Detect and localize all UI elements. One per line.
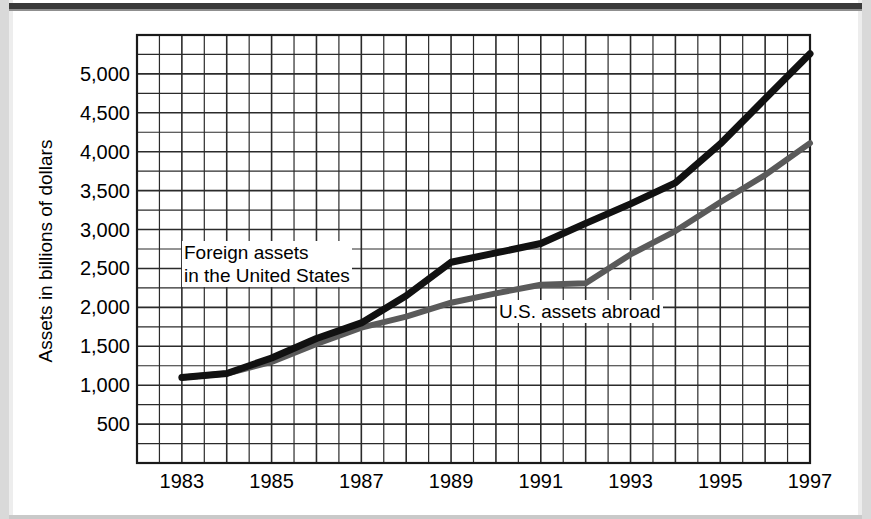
chart-page: Assets in billions of dollars 5001,0001,… xyxy=(0,0,871,519)
series-annotation-foreign-assets-line2: in the United States xyxy=(184,264,350,287)
series-annotation-foreign-assets-line1: Foreign assets xyxy=(184,241,350,264)
series-annotation-us-assets-abroad: U.S. assets abroad xyxy=(497,300,663,323)
chart-plot-area xyxy=(0,0,871,519)
series-annotation-foreign-assets: Foreign assets in the United States xyxy=(182,241,352,287)
series-annotation-us-assets-abroad-line1: U.S. assets abroad xyxy=(499,300,661,323)
